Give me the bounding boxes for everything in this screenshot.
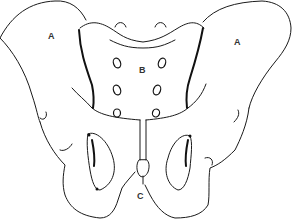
pelvis-diagram: A A B C	[0, 0, 293, 224]
pelvis-drawing	[0, 0, 293, 224]
sacral-foramen	[114, 109, 121, 117]
label-coccyx: C	[137, 192, 144, 201]
sacral-foramen	[157, 57, 167, 69]
label-right-hip: A	[234, 38, 241, 47]
label-sacrum: B	[139, 66, 146, 75]
right-hip-bone	[145, 1, 291, 218]
sacral-foramen	[112, 57, 122, 69]
coccyx	[137, 120, 149, 184]
label-left-hip: A	[48, 32, 55, 41]
sacral-foramen	[112, 84, 122, 96]
sacral-foramen	[152, 84, 162, 96]
sacral-foramen	[151, 108, 160, 118]
